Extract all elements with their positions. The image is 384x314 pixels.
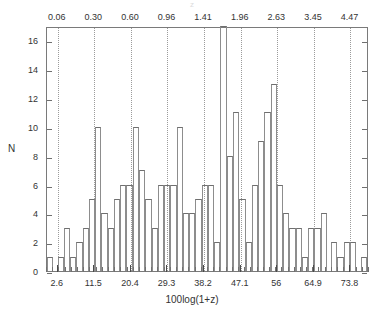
x-axis-major-tick xyxy=(93,265,94,272)
y-axis-tick xyxy=(47,100,52,101)
y-axis-tick xyxy=(362,42,367,43)
x-axis-tick-label: 38.2 xyxy=(194,278,212,288)
x-axis-minor-tick xyxy=(318,267,319,272)
y-axis-tick-label: 2 xyxy=(33,238,38,248)
x-axis-tick-label: 47.1 xyxy=(231,278,249,288)
top-axis-tick-label: 4.47 xyxy=(341,12,359,22)
x-axis-minor-tick xyxy=(52,267,53,272)
histogram-bars xyxy=(47,28,367,271)
y-axis-tick xyxy=(47,42,52,43)
x-axis-major-tick xyxy=(203,265,204,272)
y-axis-tick xyxy=(47,244,52,245)
x-axis-minor-tick xyxy=(356,267,357,272)
x-axis-minor-tick xyxy=(139,267,140,272)
x-axis-tick-label: 73.8 xyxy=(341,278,359,288)
x-axis-minor-tick xyxy=(226,267,227,272)
top-axis-tick-label: 1.41 xyxy=(194,12,212,22)
x-axis-minor-tick xyxy=(145,267,146,272)
x-axis-minor-tick xyxy=(257,267,258,272)
x-axis-minor-tick xyxy=(337,267,338,272)
y-axis-tick xyxy=(47,215,52,216)
x-axis-minor-tick xyxy=(288,267,289,272)
x-axis-minor-tick xyxy=(46,267,47,272)
x-axis-minor-tick xyxy=(151,267,152,272)
x-axis-major-tick xyxy=(313,265,314,272)
top-axis-tick-label: 0.30 xyxy=(85,12,103,22)
y-axis-tick xyxy=(47,129,52,130)
x-axis-minor-tick xyxy=(83,267,84,272)
x-axis-minor-tick xyxy=(58,267,59,272)
x-axis-minor-tick xyxy=(96,267,97,272)
top-axis-tick-label: 1.96 xyxy=(231,12,249,22)
x-axis-minor-tick xyxy=(133,267,134,272)
x-axis-minor-tick xyxy=(201,267,202,272)
x-axis-minor-tick xyxy=(127,267,128,272)
x-axis-major-tick xyxy=(276,265,277,272)
x-axis-major-tick xyxy=(240,265,241,272)
y-axis-tick-label: 8 xyxy=(33,152,38,162)
y-axis-tick-label: 0 xyxy=(33,267,38,277)
x-axis-minor-tick xyxy=(306,267,307,272)
x-axis-minor-tick xyxy=(294,267,295,272)
x-axis-minor-tick xyxy=(157,267,158,272)
x-axis-minor-tick xyxy=(219,267,220,272)
x-axis-minor-tick xyxy=(331,267,332,272)
x-axis-minor-tick xyxy=(102,267,103,272)
y-axis-tick-label: 10 xyxy=(28,123,38,133)
x-axis-minor-tick xyxy=(170,267,171,272)
y-axis-tick-label: 6 xyxy=(33,181,38,191)
x-axis-major-tick xyxy=(349,265,350,272)
x-axis-minor-tick xyxy=(120,267,121,272)
y-axis-tick-label: 14 xyxy=(28,65,38,75)
y-axis-tick xyxy=(362,100,367,101)
histogram-figure: z 0.060.300.600.961.411.962.633.454.47 0… xyxy=(0,0,384,314)
x-axis-minor-tick xyxy=(89,267,90,272)
plot-area xyxy=(46,27,368,272)
x-axis-tick-label: 56 xyxy=(271,278,281,288)
y-axis-title: N xyxy=(8,143,15,154)
x-axis-minor-tick xyxy=(195,267,196,272)
top-axis-title: z xyxy=(0,0,384,9)
top-axis-tick-label: 2.63 xyxy=(268,12,286,22)
y-axis-tick xyxy=(362,187,367,188)
top-axis-tick-label: 0.96 xyxy=(158,12,176,22)
y-axis-tick xyxy=(362,71,367,72)
x-axis-major-tick xyxy=(130,265,131,272)
y-axis-tick xyxy=(362,244,367,245)
x-axis-minor-tick xyxy=(188,267,189,272)
top-axis-tick-label: 0.06 xyxy=(48,12,66,22)
x-axis-minor-tick xyxy=(281,267,282,272)
x-axis-minor-tick xyxy=(164,267,165,272)
y-axis-tick xyxy=(362,215,367,216)
y-axis-tick xyxy=(362,158,367,159)
x-axis-minor-tick xyxy=(325,267,326,272)
x-axis-minor-tick xyxy=(213,267,214,272)
y-axis-tick-labels: 0246810121416 xyxy=(0,27,46,272)
x-axis-minor-tick xyxy=(263,267,264,272)
x-axis-minor-tick xyxy=(368,267,369,272)
x-axis-minor-tick xyxy=(114,267,115,272)
x-axis-minor-tick xyxy=(269,267,270,272)
y-axis-tick xyxy=(362,129,367,130)
y-axis-tick xyxy=(47,71,52,72)
y-axis-tick xyxy=(47,187,52,188)
x-axis-tick-labels: 2.611.520.429.338.247.15664.973.8 xyxy=(0,278,384,292)
x-axis-minor-tick xyxy=(343,267,344,272)
x-axis-minor-tick xyxy=(300,267,301,272)
y-axis-tick-label: 16 xyxy=(28,36,38,46)
x-axis-major-tick xyxy=(57,265,58,272)
x-axis-minor-tick xyxy=(207,267,208,272)
top-axis-tick-label: 3.45 xyxy=(304,12,322,22)
x-axis-tick-label: 20.4 xyxy=(121,278,139,288)
x-axis-title: 100log(1+z) xyxy=(0,294,384,305)
x-axis-tick-label: 11.5 xyxy=(85,278,102,288)
x-axis-minor-tick xyxy=(244,267,245,272)
x-axis-tick-label: 64.9 xyxy=(304,278,322,288)
y-axis-tick-label: 4 xyxy=(33,209,38,219)
y-axis-tick xyxy=(47,158,52,159)
x-axis-minor-tick xyxy=(182,267,183,272)
top-axis-tick-labels: 0.060.300.600.961.411.962.633.454.47 xyxy=(0,12,384,26)
x-axis-minor-tick xyxy=(250,267,251,272)
x-axis-minor-tick xyxy=(71,267,72,272)
x-axis-minor-tick xyxy=(65,267,66,272)
